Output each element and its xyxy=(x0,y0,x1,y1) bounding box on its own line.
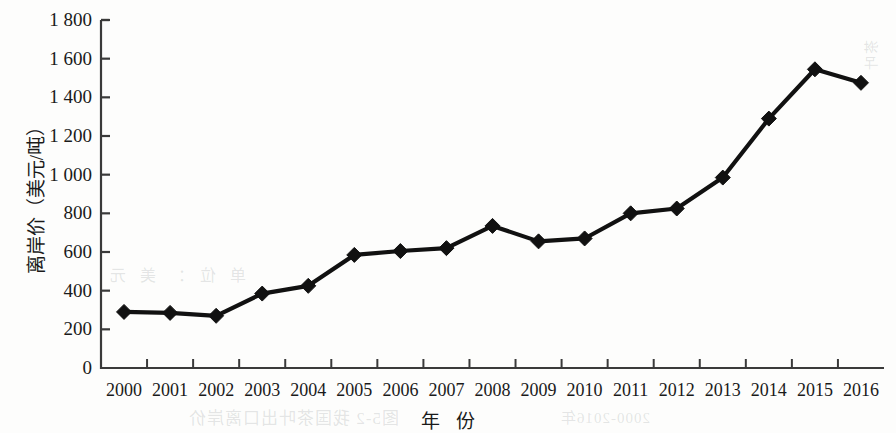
data-series-markers xyxy=(117,62,869,324)
x-axis-tick-label: 2007 xyxy=(428,381,464,399)
x-axis-tick-label: 2006 xyxy=(382,381,418,399)
x-axis-tick-label: 2002 xyxy=(198,381,234,399)
data-point-marker xyxy=(485,218,500,233)
x-axis-tick-label: 2013 xyxy=(705,381,741,399)
x-axis-ticks xyxy=(147,359,838,368)
data-point-marker xyxy=(117,304,132,319)
x-axis-tick-label: 2000 xyxy=(106,381,142,399)
data-point-marker xyxy=(531,234,546,249)
x-axis-tick-label: 2005 xyxy=(336,381,372,399)
data-point-marker xyxy=(209,308,224,323)
x-axis-tick-label: 2009 xyxy=(521,381,557,399)
data-point-marker xyxy=(853,75,868,90)
x-axis-tick-label: 2014 xyxy=(751,381,787,399)
y-axis-ticks xyxy=(101,20,110,329)
x-axis-tick-label: 2016 xyxy=(843,381,879,399)
chart-figure: 图5-2 我国茶叶出口离岸价 2000-2016年 单位：美元 茶叶 离岸价（美… xyxy=(0,0,896,433)
x-axis-tick-label: 2012 xyxy=(659,381,695,399)
x-axis-tick-label: 2010 xyxy=(567,381,603,399)
x-axis-title: 年 份 xyxy=(0,406,896,433)
plot-area xyxy=(0,0,896,433)
data-point-marker xyxy=(393,244,408,259)
data-point-marker xyxy=(255,286,270,301)
x-axis-tick-label: 2008 xyxy=(475,381,511,399)
x-axis-tick-labels: 2000200120022003200420052006200720082009… xyxy=(0,381,896,407)
x-axis-tick-label: 2003 xyxy=(244,381,280,399)
data-series-line xyxy=(124,69,861,315)
data-point-marker xyxy=(439,241,454,256)
data-point-marker xyxy=(163,305,178,320)
x-axis-tick-label: 2004 xyxy=(290,381,326,399)
x-axis-tick-label: 2001 xyxy=(152,381,188,399)
x-axis-tick-label: 2015 xyxy=(797,381,833,399)
x-axis-tick-label: 2011 xyxy=(613,381,648,399)
